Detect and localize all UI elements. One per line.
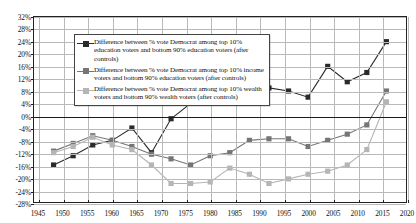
- x-axis-tick: [211, 200, 212, 203]
- series-marker: [325, 169, 330, 174]
- y-axis-tick: [31, 17, 34, 18]
- gridline-horizontal: [34, 179, 406, 180]
- y-axis-tick: [31, 192, 34, 193]
- gridline-vertical: [285, 17, 286, 202]
- series-marker: [266, 136, 271, 141]
- gridline-vertical: [334, 17, 335, 202]
- gridline-horizontal: [34, 154, 406, 155]
- x-axis-tick: [64, 200, 65, 203]
- x-axis-tick: [113, 200, 114, 203]
- x-axis-tick-label: 1975: [178, 209, 192, 218]
- x-axis-tick-label: 2000: [301, 209, 315, 218]
- gridline-horizontal: [34, 192, 406, 193]
- y-axis-tick: [31, 129, 34, 130]
- series-marker: [247, 172, 252, 177]
- y-axis-tick-label: 12%: [18, 75, 31, 84]
- x-axis-tick-label: 1955: [80, 209, 94, 218]
- plot-area: Difference between % vote Democrat among…: [33, 16, 407, 203]
- y-axis-tick-label: 24%: [18, 37, 31, 46]
- x-axis-tick: [39, 200, 40, 203]
- y-axis-tick-label: 4%: [21, 100, 31, 109]
- x-axis-tick-label: 1995: [277, 209, 291, 218]
- gridline-horizontal: [34, 167, 406, 168]
- square-marker-mid-icon: [77, 67, 94, 76]
- y-axis-tick: [31, 54, 34, 55]
- series-marker: [90, 135, 95, 140]
- y-axis-tick: [31, 204, 34, 205]
- y-axis-tick-label: 0%: [21, 112, 31, 121]
- x-axis-tick: [187, 200, 188, 203]
- series-marker: [266, 181, 271, 186]
- series-marker: [364, 147, 369, 152]
- x-axis-tick-label: 1960: [105, 209, 119, 218]
- y-axis-tick: [31, 92, 34, 93]
- y-axis-tick: [31, 67, 34, 68]
- zero-line: [34, 117, 406, 118]
- y-axis-tick-label: -4%: [19, 125, 31, 134]
- gridline-vertical: [64, 17, 65, 202]
- y-axis-tick-label: 32%: [18, 13, 31, 22]
- x-axis-tick: [383, 200, 384, 203]
- legend-item-label: Difference between % vote Democrat among…: [94, 85, 266, 102]
- y-axis-tick-label: 28%: [18, 25, 31, 34]
- x-axis-tick-label: 1985: [228, 209, 242, 218]
- x-axis-tick-label: 2010: [351, 209, 365, 218]
- y-axis-tick: [31, 179, 34, 180]
- y-axis-tick-label: -20%: [15, 175, 31, 184]
- legend-item-label: Difference between % vote Democrat among…: [94, 38, 266, 63]
- x-axis-labels: 1945195019551960196519701975198019851990…: [33, 206, 407, 220]
- x-axis-tick-label: 2020: [400, 209, 414, 218]
- y-axis-tick: [31, 167, 34, 168]
- gridline-horizontal: [34, 204, 406, 205]
- gridline-horizontal: [34, 29, 406, 30]
- x-axis-tick: [285, 200, 286, 203]
- series-marker: [129, 147, 134, 152]
- y-axis-tick: [31, 104, 34, 105]
- y-axis-tick: [31, 42, 34, 43]
- x-axis-tick-label: 1950: [55, 209, 69, 218]
- x-axis-tick-label: 1945: [31, 209, 45, 218]
- x-axis-tick: [162, 200, 163, 203]
- x-axis-tick: [334, 200, 335, 203]
- y-axis-tick: [31, 154, 34, 155]
- x-axis-tick: [260, 200, 261, 203]
- chart-figure: 32%28%24%20%16%12%8%4%0%-4%-8%-12%-16%-2…: [0, 0, 416, 223]
- x-axis-tick-label: 1980: [203, 209, 217, 218]
- x-axis-tick: [408, 200, 409, 203]
- series-marker: [90, 142, 95, 147]
- gridline-vertical: [408, 17, 409, 202]
- square-marker-dark-icon: [77, 39, 94, 48]
- chart-legend: Difference between % vote Democrat among…: [74, 34, 270, 106]
- legend-item: Difference between % vote Democrat among…: [77, 66, 266, 83]
- series-marker: [168, 181, 173, 186]
- y-axis-tick-label: -28%: [15, 200, 31, 209]
- gridline-vertical: [310, 17, 311, 202]
- legend-item: Difference between % vote Democrat among…: [77, 85, 266, 102]
- series-marker: [345, 132, 350, 137]
- series-marker: [168, 156, 173, 161]
- gridline-vertical: [383, 17, 384, 202]
- series-marker: [188, 181, 193, 186]
- y-axis-tick-label: -12%: [15, 150, 31, 159]
- x-axis-tick-label: 2015: [375, 209, 389, 218]
- x-axis-tick-label: 1990: [252, 209, 266, 218]
- gridline-horizontal: [34, 17, 406, 18]
- gridline-vertical: [359, 17, 360, 202]
- gridline-vertical: [39, 17, 40, 202]
- series-marker: [364, 122, 369, 127]
- x-axis-tick-label: 2005: [326, 209, 340, 218]
- y-axis-tick-label: 8%: [21, 87, 31, 96]
- x-axis-tick-label: 1965: [129, 209, 143, 218]
- y-axis-tick-label: 16%: [18, 62, 31, 71]
- series-marker: [364, 70, 369, 75]
- y-axis-tick-label: -24%: [15, 187, 31, 196]
- y-axis-tick-label: 20%: [18, 50, 31, 59]
- y-axis-tick: [31, 29, 34, 30]
- x-axis-tick-label: 1970: [154, 209, 168, 218]
- y-axis-tick: [31, 142, 34, 143]
- y-axis-tick-label: -8%: [19, 137, 31, 146]
- x-axis-tick: [359, 200, 360, 203]
- x-axis-tick: [88, 200, 89, 203]
- y-axis-tick-label: -16%: [15, 162, 31, 171]
- x-axis-tick: [310, 200, 311, 203]
